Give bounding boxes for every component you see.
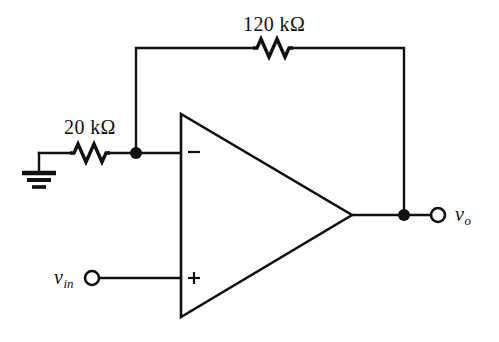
feedback-resistor-symbol (253, 39, 293, 57)
feedback-resistor-label: 120 kΩ (243, 14, 305, 34)
input-voltage-label: vin (54, 267, 73, 287)
circuit-schematic-svg (0, 0, 499, 342)
output-voltage-label: vo (455, 204, 470, 224)
opamp-symbol (181, 114, 352, 317)
opamp-triangle (181, 114, 352, 317)
noninverting-input-branch (85, 271, 181, 285)
output-node-junction-dot (398, 209, 410, 221)
input-terminal-circle[interactable] (85, 271, 99, 285)
input-voltage-symbol: v (54, 266, 63, 288)
opamp-circuit-figure: 120 kΩ 20 kΩ vin vo (0, 0, 499, 342)
input-resistor-symbol (70, 144, 110, 162)
input-voltage-subscript: in (63, 276, 73, 291)
output-terminal-circle[interactable] (431, 208, 445, 222)
output-voltage-subscript: o (464, 213, 471, 228)
ground-symbol (22, 153, 56, 187)
input-resistor-branch (39, 144, 181, 162)
inverting-node-junction-dot (130, 147, 142, 159)
input-resistor-label: 20 kΩ (64, 117, 116, 137)
output-voltage-symbol: v (455, 203, 464, 225)
